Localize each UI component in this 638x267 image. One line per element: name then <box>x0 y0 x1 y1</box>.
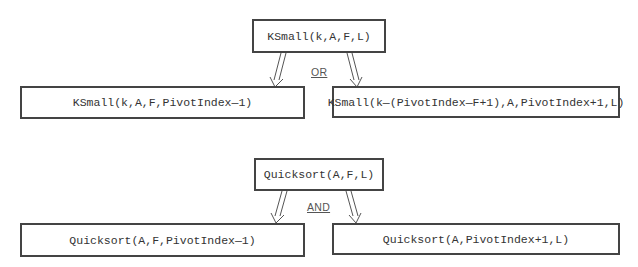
quicksort-left-child-label: Quicksort(A,F,PivotIndex—1) <box>69 234 255 247</box>
quicksort-left-arrow-icon <box>271 191 287 223</box>
ksmall-right-arrow-icon <box>347 53 362 87</box>
or-connector-label: OR <box>311 66 327 78</box>
ksmall-left-child-node: KSmall(k,A,F,PivotIndex—1) <box>20 86 305 119</box>
ksmall-left-arrow-icon <box>270 53 286 87</box>
ksmall-left-child-label: KSmall(k,A,F,PivotIndex—1) <box>73 96 252 109</box>
quicksort-right-child-node: Quicksort(A,PivotIndex+1,L) <box>332 223 620 255</box>
ksmall-right-child-node: KSmall(k—(PivotIndex—F+1),A,PivotIndex+1… <box>332 86 620 118</box>
ksmall-root-label: KSmall(k,A,F,L) <box>267 30 371 43</box>
ksmall-right-child-label: KSmall(k—(PivotIndex—F+1),A,PivotIndex+1… <box>328 96 625 109</box>
quicksort-left-child-node: Quicksort(A,F,PivotIndex—1) <box>20 223 305 257</box>
quicksort-root-node: Quicksort(A,F,L) <box>254 158 384 191</box>
quicksort-right-child-label: Quicksort(A,PivotIndex+1,L) <box>383 233 569 246</box>
ksmall-root-node: KSmall(k,A,F,L) <box>252 19 386 53</box>
quicksort-right-arrow-icon <box>346 191 361 223</box>
and-connector-label: AND <box>307 201 330 213</box>
quicksort-root-label: Quicksort(A,F,L) <box>264 168 374 181</box>
